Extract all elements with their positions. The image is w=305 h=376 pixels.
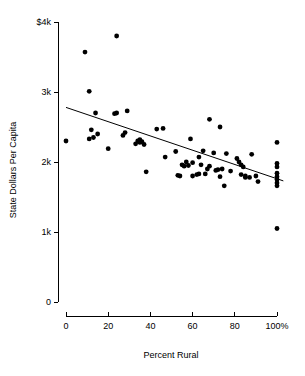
scatter-point (190, 160, 195, 165)
x-axis-tick-label: 0 (63, 321, 68, 331)
scatter-point (114, 111, 119, 116)
scatter-point (199, 162, 204, 167)
y-axis-tick-label: 3k (41, 87, 51, 97)
scatter-point (106, 146, 111, 151)
scatter-point (190, 174, 195, 179)
scatter-point (154, 127, 159, 132)
x-axis-tick-label: 80 (230, 321, 240, 331)
scatter-point (203, 172, 208, 177)
y-axis-tick-label: 2k (41, 157, 51, 167)
scatter-point (218, 174, 223, 179)
x-axis-tick-label: 100% (265, 321, 288, 331)
scatter-point (186, 163, 191, 168)
scatter-point (93, 111, 98, 116)
scatter-point (91, 135, 96, 140)
scatter-point (224, 151, 229, 156)
y-axis-tick-label: 0 (46, 297, 51, 307)
scatter-point (228, 169, 233, 174)
regression-line (66, 107, 283, 180)
scatter-point (249, 152, 254, 157)
scatter-point (275, 183, 280, 188)
scatter-plot-figure: 01k2k3k$4k 020406080100% Percent Rural S… (0, 0, 305, 376)
scatter-point (89, 127, 94, 132)
scatter-point (173, 149, 178, 154)
scatter-point (95, 132, 100, 137)
scatter-point (239, 172, 244, 177)
scatter-point (216, 167, 221, 172)
scatter-point (197, 155, 202, 160)
x-axis-tick-label: 20 (103, 321, 113, 331)
trend-line (66, 107, 283, 180)
data-points (64, 34, 280, 231)
scatter-point (275, 140, 280, 145)
scatter-point (247, 175, 252, 180)
y-axis-title: State Dollars Per Capita (8, 122, 18, 219)
x-axis: 020406080100% (63, 312, 288, 331)
y-axis-tick-label: 1k (41, 227, 51, 237)
scatter-point (87, 89, 92, 94)
scatter-point (142, 142, 147, 147)
scatter-point (275, 226, 280, 231)
scatter-point (197, 172, 202, 177)
scatter-point (222, 183, 227, 188)
scatter-point (254, 174, 259, 179)
scatter-point (207, 117, 212, 122)
scatter-point (123, 130, 128, 135)
scatter-point (114, 34, 119, 39)
scatter-point (182, 164, 187, 169)
scatter-point (144, 169, 149, 174)
scatter-point (87, 137, 92, 142)
scatter-point (243, 175, 248, 180)
scatter-point (256, 179, 261, 184)
x-axis-tick-label: 40 (145, 321, 155, 331)
scatter-point (163, 155, 168, 160)
scatter-point (211, 151, 216, 156)
scatter-point (218, 125, 223, 130)
scatter-point (83, 50, 88, 55)
scatter-point (64, 139, 69, 144)
scatter-point (275, 165, 280, 170)
y-axis: 01k2k3k$4k (36, 17, 58, 307)
scatter-point (188, 137, 193, 142)
scatter-point (220, 167, 225, 172)
scatter-point (207, 164, 212, 169)
x-axis-tick-label: 60 (188, 321, 198, 331)
scatter-point (161, 126, 166, 131)
scatter-point (201, 148, 206, 153)
y-axis-tick-label: $4k (36, 17, 51, 27)
scatter-point (125, 109, 130, 114)
scatter-point (178, 174, 183, 179)
x-axis-title: Percent Rural (143, 350, 198, 360)
chart-canvas: 01k2k3k$4k 020406080100% Percent Rural S… (0, 0, 305, 376)
